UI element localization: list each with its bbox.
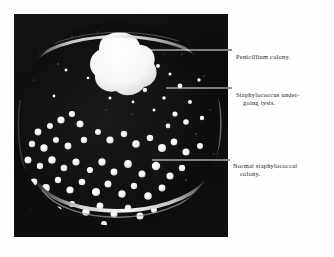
agar-field bbox=[14, 22, 222, 227]
annotation-normal-line2: colony. bbox=[233, 170, 333, 179]
annotation-staphylococcus-lysis: Staphylococcus under- going lysis. bbox=[236, 82, 332, 116]
petri-dish-photograph bbox=[14, 14, 228, 237]
annotation-lysis-line1: Staphylococcus under- bbox=[236, 91, 300, 98]
figure-root: Penicillium colony. Staphylococcus under… bbox=[0, 0, 334, 257]
annotation-penicillium-colony: Penicillium colony. bbox=[236, 44, 332, 70]
petri-dish-illustration bbox=[14, 14, 228, 237]
annotation-normal-staphylococcal-colony: Normal staphylococcal colony. bbox=[233, 153, 333, 187]
annotation-normal-line1: Normal staphylococcal bbox=[233, 162, 297, 169]
annotation-lysis-line2: going lysis. bbox=[236, 99, 332, 108]
annotation-penicillium-line1: Penicillium colony. bbox=[236, 53, 290, 60]
